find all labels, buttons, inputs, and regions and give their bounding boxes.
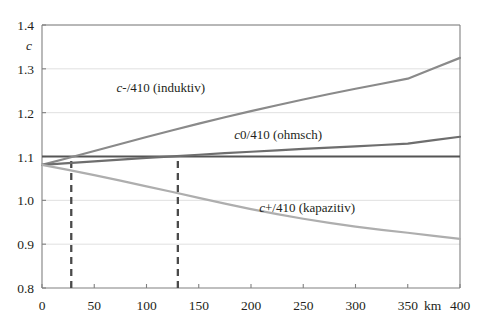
x-tick-label: 100 bbox=[136, 298, 157, 313]
chart-figure: 050100150200250300350400 0.80.91.01.11.2… bbox=[0, 0, 480, 334]
y-tick-label: 0.8 bbox=[17, 281, 34, 296]
x-tick-label: 150 bbox=[189, 298, 210, 313]
x-tick-label: 200 bbox=[241, 298, 262, 313]
x-tick-label: 400 bbox=[450, 298, 471, 313]
series-label-2: c+/410 (kapazitiv) bbox=[259, 200, 355, 215]
y-axis-label: c bbox=[26, 38, 32, 53]
x-tick-label: 350 bbox=[398, 298, 419, 313]
x-tick-label: 0 bbox=[39, 298, 46, 313]
y-tick-label: 1.0 bbox=[17, 193, 34, 208]
y-tick-label: 1.4 bbox=[17, 18, 34, 33]
series-label-0: c-/410 (induktiv) bbox=[117, 80, 205, 95]
x-unit-label: km bbox=[424, 298, 442, 313]
series-label-1: c0/410 (ohmsch) bbox=[234, 127, 322, 142]
x-tick-label: 250 bbox=[293, 298, 314, 313]
y-tick-label: 1.3 bbox=[17, 62, 34, 77]
y-tick-label: 1.1 bbox=[17, 150, 34, 165]
x-tick-label: 300 bbox=[345, 298, 366, 313]
y-tick-label: 0.9 bbox=[17, 237, 34, 252]
x-tick-label: 50 bbox=[88, 298, 102, 313]
y-tick-label: 1.2 bbox=[17, 106, 34, 121]
